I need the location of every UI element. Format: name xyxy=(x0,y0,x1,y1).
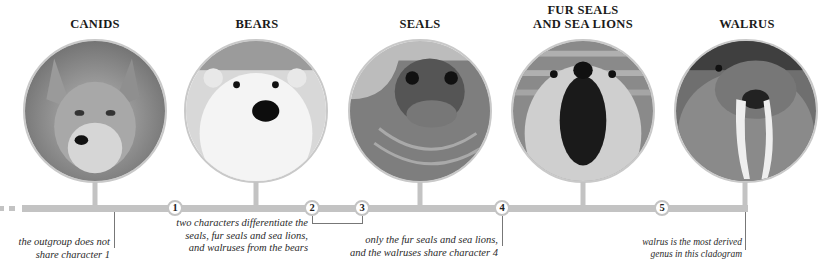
note-outgroup: the outgroup does not share character 1 xyxy=(19,236,110,261)
title-line: CANIDS xyxy=(70,17,120,31)
note-line: the outgroup does not xyxy=(19,236,110,249)
note-char-4: only the fur seals and sea lions, and th… xyxy=(350,234,498,259)
taxon-title-walrus: WALRUS xyxy=(719,17,774,31)
node-label: 3 xyxy=(359,202,364,213)
note-chars-2-3: two characters differentiate the seals, … xyxy=(176,217,308,255)
note-walrus-derived: walrus is the most derived genus in this… xyxy=(642,237,742,260)
node-label: 5 xyxy=(659,202,664,213)
seal-photo xyxy=(348,39,492,183)
taxon-title-seals: SEALS xyxy=(399,17,440,31)
taxon-title-fur-seals: FUR SEALS AND SEA LIONS xyxy=(533,3,633,31)
note-line: two characters differentiate the xyxy=(176,217,308,230)
leader-char-4 xyxy=(502,216,503,246)
note-line: and walruses from the bears xyxy=(176,242,308,255)
title-line: AND SEA LIONS xyxy=(533,17,633,31)
note-line: share character 1 xyxy=(19,249,110,262)
polar-bear-photo xyxy=(184,39,328,183)
note-line: and the walruses share character 4 xyxy=(350,247,498,260)
character-node-2: 2 xyxy=(304,200,320,216)
leader-walrus xyxy=(745,212,746,250)
character-node-3: 3 xyxy=(354,200,370,216)
character-node-5: 5 xyxy=(654,200,670,216)
bracket-chars-2-3 xyxy=(312,223,363,224)
fur-seal-photo xyxy=(511,39,655,183)
leader-outgroup xyxy=(114,212,115,248)
node-label: 2 xyxy=(309,202,314,213)
fox-photo xyxy=(23,39,167,183)
title-line: BEARS xyxy=(235,17,278,31)
character-node-1: 1 xyxy=(167,200,183,216)
axis-dash xyxy=(9,206,15,211)
note-line: genus in this cladogram xyxy=(642,249,742,261)
taxon-title-bears: BEARS xyxy=(235,17,278,31)
node-label: 1 xyxy=(172,202,177,213)
taxon-title-canids: CANIDS xyxy=(70,17,120,31)
walrus-photo xyxy=(674,39,818,183)
node-label: 4 xyxy=(499,202,504,213)
title-line: WALRUS xyxy=(719,17,774,31)
axis-dash xyxy=(0,206,4,211)
title-line: FUR SEALS xyxy=(533,3,633,17)
title-line: SEALS xyxy=(399,17,440,31)
character-node-4: 4 xyxy=(494,200,510,216)
note-line: only the fur seals and sea lions, xyxy=(350,234,498,247)
note-line: seals, fur seals and sea lions, xyxy=(176,230,308,243)
note-line: walrus is the most derived xyxy=(642,237,742,249)
cladogram-axis xyxy=(22,205,748,212)
